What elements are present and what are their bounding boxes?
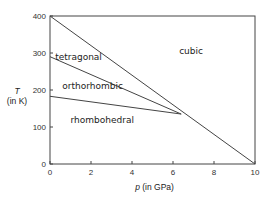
region-label-rhombohedral: rhombohedral xyxy=(71,115,134,125)
phase-diagram: 0246810 0100200300400 cubictetragonalort… xyxy=(0,0,272,200)
region-label-cubic: cubic xyxy=(179,46,203,56)
x-tick-label: 2 xyxy=(89,168,94,177)
y-axis-label-var: T xyxy=(14,86,20,96)
x-tick-label: 8 xyxy=(212,168,217,177)
x-tick-label: 4 xyxy=(130,168,135,177)
y-tick-label: 100 xyxy=(33,123,47,132)
y-tick-label: 0 xyxy=(42,160,47,169)
y-tick-label: 400 xyxy=(33,12,47,21)
x-tick-label: 0 xyxy=(48,168,53,177)
y-axis-label-unit: (in K) xyxy=(7,96,27,106)
region-label-orthorhombic: orthorhombic xyxy=(62,81,123,91)
x-axis-label-unit: (in GPa) xyxy=(140,182,174,192)
region-label-tetragonal: tetragonal xyxy=(55,52,102,62)
x-tick-label: 10 xyxy=(251,168,260,177)
y-tick-label: 300 xyxy=(33,49,47,58)
x-tick-label: 6 xyxy=(171,168,176,177)
y-tick-label: 200 xyxy=(33,86,47,95)
x-axis-label: p (in GPa) xyxy=(134,182,174,192)
